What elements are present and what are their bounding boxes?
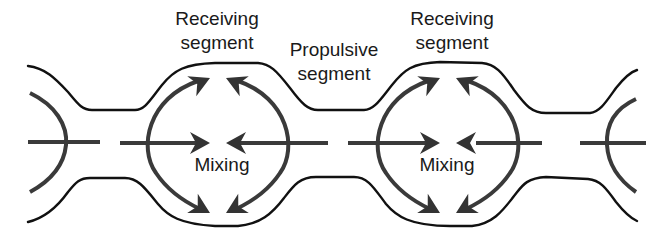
label-propulsive-segment: Propulsive segment [290,39,379,84]
label-line: Propulsive [290,39,379,60]
label-line: segment [181,32,255,53]
arrowhead-up-right [226,76,249,96]
label-line: segment [416,32,490,53]
label-mixing-right: Mixing [420,154,475,175]
lumen-center-axis [28,142,646,143]
label-line: segment [298,63,372,84]
segmentation-diagram: Receiving segment Propulsive segment Rec… [0,0,662,235]
arrowhead-up-right [456,76,479,96]
label-line: Receiving [175,8,258,29]
partial-cell-right-edge [607,99,636,192]
arrowhead-axis-left [456,132,476,154]
label-line: Receiving [410,8,493,29]
intestinal-wall-bottom [28,177,637,226]
label-receiving-segment-left: Receiving segment [175,8,258,53]
arrowhead-up-left [417,76,440,96]
label-mixing-left: Mixing [195,154,250,175]
arrowhead-up-left [187,76,210,96]
label-receiving-segment-right: Receiving segment [410,8,493,53]
